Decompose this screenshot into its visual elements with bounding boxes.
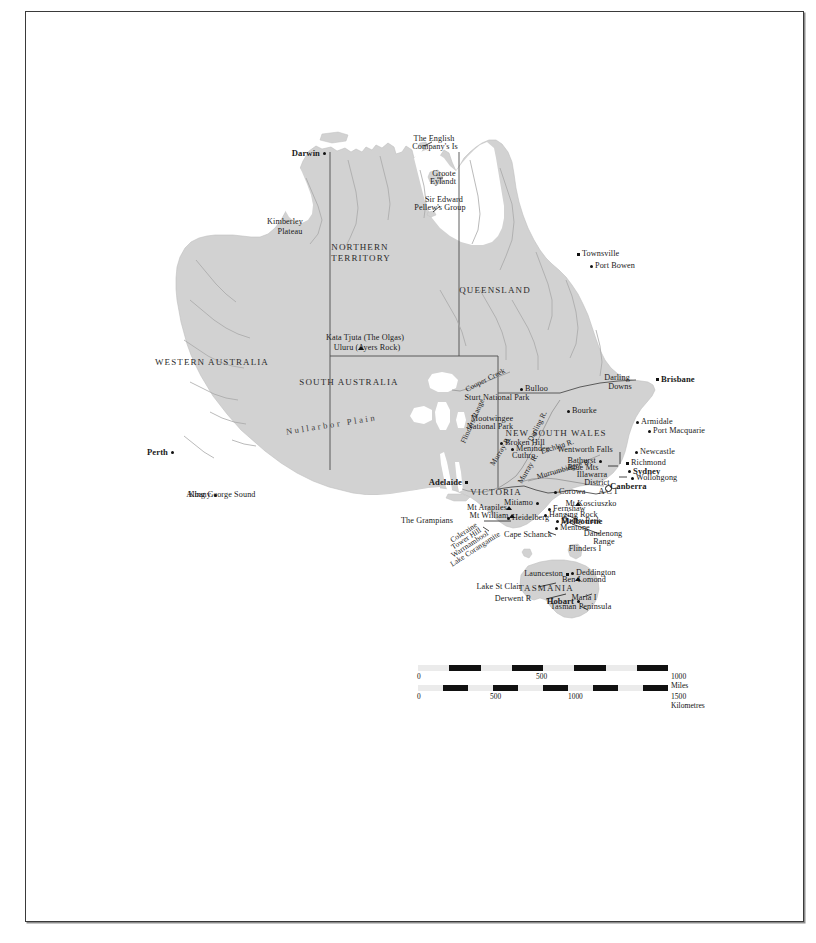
city-label-launceston: Launceston: [524, 570, 563, 578]
feature-label-company-s-is: Company's Is: [412, 143, 458, 151]
peak-marker-mt-arapiles: [506, 506, 512, 510]
feature-label-derwent-r: Derwent R: [495, 595, 532, 603]
feature-label-cape-schanck: Cape Schanck: [504, 531, 552, 539]
city-marker-armidale: [636, 421, 639, 424]
king-island: [522, 549, 532, 558]
city-label-perth: Perth: [147, 448, 168, 457]
city-marker-richmond: [626, 462, 629, 465]
state-label-tasmania: TASMANIA: [518, 584, 574, 593]
feature-label-king-george-sound: King George Sound: [188, 491, 255, 499]
city-label-brisbane: Brisbane: [661, 375, 695, 384]
city-marker-mitiamo: [536, 502, 539, 505]
scale-km-unit: 1500 Kilometres: [671, 692, 705, 710]
city-marker-port-macquarie: [648, 430, 651, 433]
state-label-northern: NORTHERN: [331, 243, 388, 252]
feature-label-dusky-park: Dusky Park: [561, 517, 600, 525]
city-marker-bourke: [567, 410, 570, 413]
city-label-townsville: Townsville: [582, 250, 619, 258]
city-marker-corowa: [554, 491, 557, 494]
feature-label-pellew-s-group: Pellew's Group: [414, 204, 465, 212]
feature-label-lake-st-clair: Lake St Clair: [477, 583, 522, 591]
city-label-bourke: Bourke: [572, 407, 597, 415]
feature-label-district: District: [584, 479, 609, 487]
city-marker-bulloo: [520, 388, 523, 391]
city-label-canberra: Canberra: [610, 482, 647, 491]
feature-label-mt-kosciuszko: Mt Kosciuszko: [565, 500, 616, 508]
feature-label-ben-lomond: Ben Lomond: [562, 576, 606, 584]
city-label-darwin: Darwin: [292, 149, 320, 158]
feature-label-the-grampians: The Grampians: [401, 517, 453, 525]
feature-label-mt-william: Mt William: [470, 512, 509, 520]
peak-marker-uluru-ayers-rock: [358, 346, 364, 350]
state-label-western-australia: WESTERN AUSTRALIA: [155, 358, 269, 367]
city-label-port-bowen: Port Bowen: [595, 262, 635, 270]
city-marker-perth: [171, 451, 174, 454]
city-marker-hanging-rock: [544, 514, 547, 517]
city-marker-port-bowen: [590, 265, 593, 268]
state-label-south-australia: SOUTH AUSTRALIA: [299, 378, 398, 387]
feature-label-downs: Downs: [608, 383, 632, 391]
peak-marker-mt-william: [509, 514, 515, 518]
city-marker-sydney: [628, 470, 631, 473]
scale-km-tick-500: 500: [490, 692, 501, 701]
peak-marker-ben-lomond: [575, 577, 581, 581]
city-marker-melbourne: [556, 520, 559, 523]
feature-label-eylandt: Eylandt: [430, 178, 456, 186]
scale-km-tick-0: 0: [417, 692, 421, 701]
city-marker-wollongong: [631, 477, 634, 480]
scale-miles-tick-0: 0: [417, 672, 421, 681]
feature-label-flinders-i: Flinders I: [569, 545, 602, 553]
city-marker-bathurst: [599, 460, 602, 463]
scale-miles-tick-500: 500: [536, 672, 547, 681]
peak-marker-mt-kosciuszko: [575, 502, 581, 506]
city-marker-adelaide: [465, 481, 468, 484]
state-label-territory: TERRITORY: [331, 254, 391, 263]
feature-label-plateau: Plateau: [278, 228, 303, 236]
city-label-corowa: Corowa: [559, 488, 586, 496]
melville-island: [320, 132, 348, 143]
feature-label-tasman-peninsula: Tasman Peninsula: [551, 603, 612, 611]
city-marker-brisbane: [656, 378, 659, 381]
scale-bars: 0 500 1000 Miles 0 500 1000 1500 Kilomet…: [418, 665, 668, 703]
city-label-adelaide: Adelaide: [429, 478, 462, 487]
city-label-newcastle: Newcastle: [640, 448, 675, 456]
city-label-port-macquarie: Port Macquarie: [653, 427, 705, 435]
feature-label-kimberley: Kimberley: [267, 218, 303, 226]
feature-label-kata-tjuta-the-olgas: Kata Tjuta (The Olgas): [326, 334, 404, 342]
australia-map-graphic: [0, 0, 816, 943]
map-page: WESTERN AUSTRALIANORTHERNTERRITORYQUEENS…: [0, 0, 816, 943]
scale-miles-unit: 1000 Miles: [671, 672, 688, 690]
city-marker-mentone: [555, 527, 558, 530]
scale-km-tick-1000: 1000: [568, 692, 583, 701]
state-label-victoria: VICTORIA: [470, 488, 522, 497]
city-marker-townsville: [577, 253, 580, 256]
map-stage: WESTERN AUSTRALIANORTHERNTERRITORYQUEENS…: [0, 0, 816, 943]
state-label-queensland: QUEENSLAND: [459, 286, 531, 295]
feature-label-sturt-national-park: Sturt National Park: [464, 394, 529, 402]
feature-label-uluru-ayers-rock: Uluru (Ayers Rock): [334, 344, 401, 352]
city-marker-darwin: [323, 152, 326, 155]
city-marker-newcastle: [635, 451, 638, 454]
